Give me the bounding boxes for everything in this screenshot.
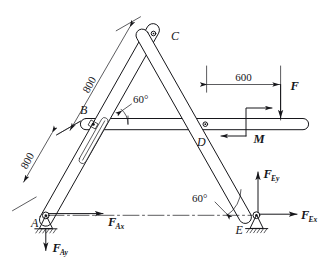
force-F-label: F bbox=[290, 79, 300, 93]
reaction-FAy: F Ay bbox=[46, 230, 69, 257]
dim-800-lower-text: 800 bbox=[18, 150, 37, 171]
dim-800-upper-text: 800 bbox=[80, 74, 99, 95]
dimension-600: 600 bbox=[207, 66, 281, 120]
label-A: A bbox=[30, 216, 39, 230]
label-E: E bbox=[235, 223, 244, 237]
pin-joint-D bbox=[203, 122, 208, 127]
ground-hatch-E bbox=[246, 229, 267, 233]
label-D: D bbox=[196, 135, 206, 149]
pin-joint-C bbox=[151, 31, 156, 36]
reaction-FAy-sub: Ay bbox=[59, 248, 68, 257]
reaction-FEx: F Ex bbox=[260, 208, 318, 224]
angle-60-B-text: 60° bbox=[133, 93, 148, 105]
reaction-FEx-sub: Ex bbox=[308, 215, 318, 224]
label-C: C bbox=[171, 29, 180, 43]
figure-canvas: 800 800 600 F M bbox=[0, 0, 326, 259]
angle-60-E-text: 60° bbox=[192, 192, 207, 204]
reaction-FAx-sub: Ax bbox=[115, 222, 125, 231]
couple-M-label: M bbox=[253, 132, 266, 146]
dim-600-text: 600 bbox=[235, 71, 252, 83]
reaction-FEy: F Ey bbox=[258, 167, 280, 213]
reaction-FEy-sub: Ey bbox=[270, 174, 280, 183]
applied-force-F: F bbox=[281, 79, 300, 119]
reaction-FAx: F Ax bbox=[49, 214, 125, 231]
engineering-figure: 800 800 600 F M bbox=[0, 0, 326, 259]
label-B: B bbox=[80, 103, 88, 117]
